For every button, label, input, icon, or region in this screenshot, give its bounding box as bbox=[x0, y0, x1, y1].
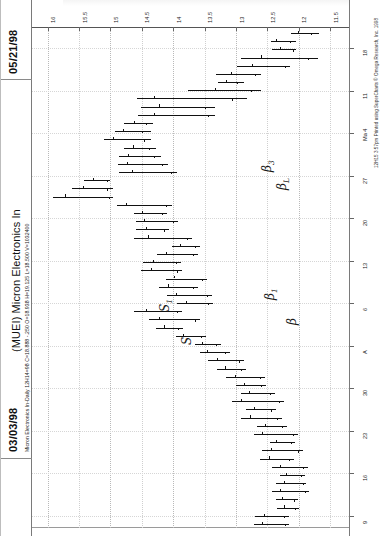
date-tick-label: 16 bbox=[362, 475, 368, 481]
date-tick bbox=[350, 176, 354, 177]
date-tick-label: A bbox=[362, 350, 368, 354]
ohlc-open-tick bbox=[265, 424, 266, 426]
ohlc-bar bbox=[218, 82, 243, 83]
date-tick bbox=[350, 91, 354, 92]
ohlc-close-tick bbox=[303, 467, 304, 469]
date-tick bbox=[350, 473, 354, 474]
ohlc-close-tick bbox=[178, 328, 179, 330]
ohlc-close-tick bbox=[237, 82, 238, 84]
date-gridline bbox=[32, 218, 349, 219]
price-tick-label: 13.5 bbox=[207, 12, 213, 23]
ohlc-open-tick bbox=[159, 104, 160, 106]
ohlc-bar bbox=[237, 66, 290, 67]
date-tick-label: Ma 4 bbox=[362, 129, 368, 141]
ohlc-close-tick bbox=[195, 246, 196, 248]
ohlc-open-tick bbox=[123, 129, 124, 131]
ohlc-open-tick bbox=[146, 309, 147, 311]
ohlc-open-tick bbox=[249, 391, 250, 393]
ohlc-close-tick bbox=[260, 377, 261, 379]
date-tick bbox=[350, 388, 354, 389]
price-tick-label: 15.5 bbox=[82, 12, 88, 23]
print-credit-footer: 12H15 3:57pm Printed using SuperCharts ©… bbox=[374, 18, 379, 168]
wave-annotation-b1: β1 bbox=[263, 288, 279, 300]
date-axis-column: 1811Ma 42720136A3023169 12H15 3:57pm Pri… bbox=[349, 0, 380, 536]
ohlc-open-tick bbox=[93, 178, 94, 180]
wave-annotation-s: S bbox=[180, 337, 194, 345]
ohlc-close-tick bbox=[255, 74, 256, 76]
ohlc-bar bbox=[167, 295, 212, 296]
ohlc-open-tick bbox=[154, 113, 155, 115]
price-gridline bbox=[299, 27, 300, 528]
price-tick bbox=[299, 27, 300, 31]
ohlc-bar bbox=[124, 148, 155, 149]
price-tick bbox=[110, 27, 111, 31]
ohlc-open-tick bbox=[126, 203, 127, 205]
ohlc-bar bbox=[137, 98, 247, 99]
price-tick bbox=[79, 27, 80, 31]
ohlc-close-tick bbox=[201, 336, 202, 338]
date-label-bottom: 03/03/98 bbox=[8, 408, 19, 452]
ohlc-open-tick bbox=[286, 473, 287, 475]
ohlc-close-tick bbox=[270, 393, 271, 395]
date-tick bbox=[350, 133, 354, 134]
ohlc-open-tick bbox=[151, 268, 152, 270]
ohlc-close-tick bbox=[193, 287, 194, 289]
ohlc-close-tick bbox=[241, 369, 242, 371]
price-tick bbox=[142, 27, 143, 31]
ohlc-open-tick bbox=[154, 96, 155, 98]
ohlc-close-tick bbox=[290, 41, 291, 43]
ohlc-close-tick bbox=[251, 90, 252, 92]
ohlc-close-tick bbox=[154, 156, 155, 158]
ohlc-close-tick bbox=[107, 180, 108, 182]
ohlc-close-tick bbox=[293, 434, 294, 436]
ohlc-close-tick bbox=[294, 499, 295, 501]
ohlc-close-tick bbox=[176, 262, 177, 264]
ohlc-close-tick bbox=[311, 33, 312, 35]
ohlc-open-tick bbox=[269, 456, 270, 458]
date-tick-label: 11 bbox=[362, 93, 368, 99]
date-gridline bbox=[32, 388, 349, 389]
ohlc-bar bbox=[115, 131, 150, 132]
ohlc-open-tick bbox=[280, 47, 281, 49]
date-tick bbox=[350, 218, 354, 219]
ohlc-close-tick bbox=[208, 115, 209, 117]
date-gridline bbox=[32, 346, 349, 347]
ohlc-bar bbox=[141, 107, 215, 108]
date-tick bbox=[350, 48, 354, 49]
date-gridline bbox=[32, 48, 349, 49]
ohlc-bar bbox=[195, 344, 221, 345]
ohlc-bar bbox=[291, 33, 319, 34]
wave-annotation-b3: β3 bbox=[260, 160, 276, 172]
ohlc-open-tick bbox=[186, 301, 187, 303]
ohlc-close-tick bbox=[162, 164, 163, 166]
ohlc-open-tick bbox=[174, 276, 175, 278]
ohlc-bar bbox=[272, 491, 308, 492]
ohlc-open-tick bbox=[176, 293, 177, 295]
ohlc-open-tick bbox=[128, 154, 129, 156]
ohlc-close-tick bbox=[193, 254, 194, 256]
price-gridline bbox=[236, 27, 237, 528]
ohlc-open-tick bbox=[166, 252, 167, 254]
date-tick-label: 27 bbox=[362, 177, 368, 183]
quote-parameter-line: Micron Electronics In-Daily 12H14=98 C=1… bbox=[25, 224, 30, 452]
ohlc-close-tick bbox=[142, 131, 143, 133]
ohlc-open-tick bbox=[83, 186, 84, 188]
ohlc-close-tick bbox=[164, 229, 165, 231]
info-divider-bottom bbox=[1, 458, 32, 459]
ohlc-close-tick bbox=[289, 459, 290, 461]
date-tick-label: 9 bbox=[362, 521, 368, 524]
price-tick bbox=[48, 27, 49, 31]
ohlc-open-tick bbox=[264, 514, 265, 516]
ohlc-open-tick bbox=[254, 407, 255, 409]
ohlc-close-tick bbox=[277, 418, 278, 420]
wave-annotation-b: β bbox=[285, 318, 299, 325]
ohlc-bar bbox=[232, 401, 283, 402]
ohlc-close-tick bbox=[261, 385, 262, 387]
ohlc-open-tick bbox=[148, 235, 149, 237]
ohlc-open-tick bbox=[241, 399, 242, 401]
ohlc-close-tick bbox=[216, 344, 217, 346]
ohlc-close-tick bbox=[285, 524, 286, 526]
ohlc-open-tick bbox=[284, 481, 285, 483]
ohlc-open-tick bbox=[215, 88, 216, 90]
